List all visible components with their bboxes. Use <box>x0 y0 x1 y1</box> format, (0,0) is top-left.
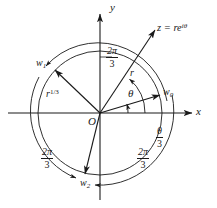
w1-vector <box>55 70 100 113</box>
w1-label-subscript: 1 <box>43 62 47 70</box>
root-magnitude-label: r1/3 <box>46 89 59 99</box>
w1-label: w1 <box>36 58 46 70</box>
z-vector-exponent: iθ <box>182 22 187 30</box>
z-vector-label: z = reiθ <box>157 23 187 34</box>
two-pi-over-three-right-numerator: 2π <box>137 147 149 158</box>
z-magnitude-label: r <box>130 68 134 78</box>
complex-plane-figure: y x O z = reiθ r θ w0 w1 w2 r1/3 2π 3 θ … <box>0 0 217 208</box>
theta-over-three-label: θ 3 <box>156 126 163 149</box>
w2-label-subscript: 2 <box>87 182 91 190</box>
two-pi-over-three-left-label: 2π 3 <box>41 147 53 170</box>
y-axis-label: y <box>110 2 115 13</box>
w1-label-text: w <box>36 57 43 68</box>
two-pi-over-three-left-denominator: 3 <box>41 160 53 171</box>
origin-label: O <box>88 116 96 127</box>
z-vector-label-text: z = re <box>157 22 182 33</box>
w2-label-text: w <box>80 177 87 188</box>
w0-label-subscript: 0 <box>170 91 174 99</box>
theta-over-three-numerator: θ <box>156 126 163 137</box>
root-magnitude-exponent: 1/3 <box>50 88 59 96</box>
two-pi-over-three-top-denominator: 3 <box>106 59 118 70</box>
w2-label: w2 <box>80 178 90 190</box>
w0-label-text: w <box>163 86 170 97</box>
theta-over-three-arc <box>127 104 128 113</box>
two-pi-over-three-right-denominator: 3 <box>137 160 149 171</box>
w0-label: w0 <box>163 87 173 99</box>
z-vector <box>100 30 155 113</box>
theta-label: θ <box>128 88 133 99</box>
two-pi-over-three-left-numerator: 2π <box>41 147 53 158</box>
two-pi-over-three-top-label: 2π 3 <box>106 46 118 69</box>
two-pi-over-three-top-numerator: 2π <box>106 46 118 57</box>
theta-over-three-denominator: 3 <box>156 139 163 150</box>
two-pi-over-three-right-label: 2π 3 <box>137 147 149 170</box>
x-axis-label: x <box>196 106 201 117</box>
